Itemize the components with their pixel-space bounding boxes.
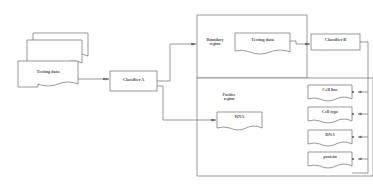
- junction-dot-cell-line: [352, 91, 354, 93]
- testing-data-stack: [18, 33, 88, 87]
- classifier-a-box: [110, 71, 157, 91]
- junction-dot-boundary-in: [191, 43, 193, 45]
- junction-dot-classifier-a-in: [103, 78, 105, 80]
- edge-classifiera-to-boundary: [157, 44, 190, 81]
- junction-dot-dna: [352, 136, 354, 138]
- junction-dot-rna-in: [211, 119, 213, 121]
- classifier-b-box: [311, 34, 360, 50]
- junction-dot-cell-type: [352, 113, 354, 115]
- flowchart-canvas: [0, 0, 373, 188]
- junction-dot-classifierb-in: [305, 43, 307, 45]
- testing-data-doc-front: [18, 61, 78, 87]
- junction-dot-protein: [352, 158, 354, 160]
